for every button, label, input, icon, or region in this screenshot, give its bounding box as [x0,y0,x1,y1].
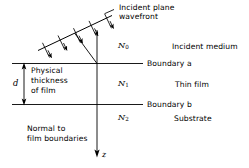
normal-caption-line2: film boundaries [27,134,88,143]
thickness-caption-line2: thickness [31,76,68,85]
refractive-index-n2: N2 [118,113,129,124]
n2-subscript: 2 [125,116,129,122]
substrate-label: Substrate [174,114,212,123]
wavefront-caption-leader [105,10,114,14]
boundary-a-label: Boundary a [147,59,192,68]
incident-wavefront-label-line1: Incident plane [119,3,175,12]
z-axis-label: z [102,150,106,159]
n0-subscript: 0 [125,44,129,50]
normal-caption-line1: Normal to [27,124,65,133]
incident-medium-label: Incident medium [172,42,238,51]
thickness-caption-line1: Physical [31,66,63,75]
thickness-symbol-d: d [13,79,18,88]
n1-subscript: 1 [125,82,129,88]
incident-wavefront-label-line2: wavefront [119,12,158,21]
thin-film-diagram: Incident plane wavefront N0 Incident med… [0,0,249,168]
thickness-caption-line3: of film [31,86,56,95]
refractive-index-n1: N1 [118,79,129,90]
boundary-b-label: Boundary b [147,100,192,109]
z-axis-line [94,30,99,158]
refractive-index-n0: N0 [118,41,129,52]
thin-film-label: Thin film [175,80,209,89]
thickness-dimension-line [22,63,27,106]
